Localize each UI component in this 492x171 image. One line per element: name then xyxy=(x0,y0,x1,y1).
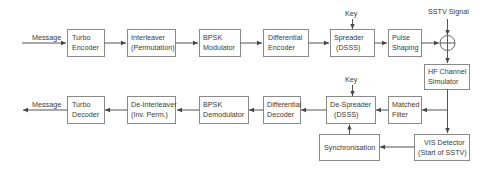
svg-text:De-Spreader: De-Spreader xyxy=(330,100,372,109)
sstv-signal-input: SSTV Signal xyxy=(428,7,469,35)
message-output: Message xyxy=(23,100,68,110)
svg-text:Turbo: Turbo xyxy=(72,33,91,42)
svg-text:VIS Detector: VIS Detector xyxy=(424,138,465,147)
svg-text:Differential: Differential xyxy=(267,100,302,109)
svg-text:(DSSS): (DSSS) xyxy=(336,43,360,52)
svg-text:BPSK: BPSK xyxy=(203,100,222,109)
sstv-signal-label: SSTV Signal xyxy=(428,7,469,16)
differential-encoder-block: Differential Encoder xyxy=(264,30,309,57)
svg-text:Matched: Matched xyxy=(392,100,420,109)
turbo-decoder-block: Turbo Decoder xyxy=(68,97,105,124)
interleaver-block: Interleaver (Permutation) xyxy=(128,30,176,57)
svg-text:Modulator: Modulator xyxy=(203,43,236,52)
svg-text:Filter: Filter xyxy=(392,110,409,119)
svg-text:BPSK: BPSK xyxy=(203,33,222,42)
bpsk-demodulator-block: BPSK Demodulator xyxy=(200,97,249,124)
message-out-label: Message xyxy=(32,100,61,109)
de-interleaver-block: De-Interleaver (Inv. Perm.) xyxy=(128,97,178,124)
de-spreader-block: De-Spreader (DSSS) xyxy=(327,97,376,124)
spreader-block: Spreader (DSSS) xyxy=(331,30,375,57)
message-in-label: Message xyxy=(32,33,61,42)
matched-filter-block: Matched Filter xyxy=(389,97,422,124)
key-tx-label: Key xyxy=(345,9,358,18)
svg-text:Differential: Differential xyxy=(268,33,303,42)
message-input: Message xyxy=(22,33,66,43)
svg-text:Spreader: Spreader xyxy=(334,33,364,42)
svg-text:Shaping: Shaping xyxy=(392,43,418,52)
key-rx-label: Key xyxy=(345,75,358,84)
svg-text:Encoder: Encoder xyxy=(268,43,295,52)
svg-text:Decoder: Decoder xyxy=(267,110,295,119)
summing-junction xyxy=(440,36,455,51)
svg-text:(Permutation): (Permutation) xyxy=(131,43,175,52)
svg-text:(DSSS): (DSSS) xyxy=(334,110,358,119)
svg-text:HF Channel: HF Channel xyxy=(428,67,467,76)
svg-text:Synchronisation: Synchronisation xyxy=(324,143,375,152)
svg-text:Decoder: Decoder xyxy=(72,110,100,119)
svg-text:Encoder: Encoder xyxy=(72,43,99,52)
vis-detector-block: VIS Detector (Start of SSTV) xyxy=(415,135,470,161)
svg-text:Simulator: Simulator xyxy=(428,77,459,86)
block-diagram: Message Turbo Encoder Interleaver (Permu… xyxy=(0,0,492,171)
svg-text:Demodulator: Demodulator xyxy=(203,110,245,119)
pulse-shaping-block: Pulse Shaping xyxy=(389,30,422,57)
key-tx-input: Key xyxy=(345,9,358,29)
differential-decoder-block: Differential Decoder xyxy=(264,97,302,124)
synchronisation-block: Synchronisation xyxy=(320,135,380,161)
svg-text:Interleaver: Interleaver xyxy=(131,33,166,42)
svg-text:De-Interleaver: De-Interleaver xyxy=(131,100,177,109)
svg-text:Pulse: Pulse xyxy=(392,33,410,42)
turbo-encoder-block: Turbo Encoder xyxy=(68,30,105,57)
svg-text:Turbo: Turbo xyxy=(72,100,91,109)
svg-text:(Start of SSTV): (Start of SSTV) xyxy=(418,148,467,157)
key-rx-input: Key xyxy=(345,75,358,96)
bpsk-modulator-block: BPSK Modulator xyxy=(200,30,241,57)
hf-channel-simulator-block: HF Channel Simulator xyxy=(425,65,470,90)
svg-text:(Inv. Perm.): (Inv. Perm.) xyxy=(131,110,168,119)
